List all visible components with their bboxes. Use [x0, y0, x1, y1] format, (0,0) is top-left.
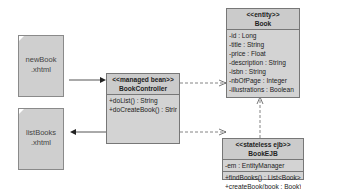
page-extension: .xhtml [19, 64, 63, 75]
class-header: <<managed bean>> BookController [107, 74, 179, 95]
attribute: -price : Float [229, 49, 297, 58]
class-stereotype: <<managed bean>> [107, 75, 179, 84]
class-stereotype: <<stateless ejb>> [223, 140, 303, 149]
class-stereotype: <<entity>> [227, 10, 299, 19]
class-book-entity[interactable]: <<entity>> Book -id : Long -title : Stri… [226, 8, 300, 98]
class-header: <<stateless ejb>> BookEJB [223, 139, 303, 160]
dependency-ejb-to-book [257, 97, 263, 138]
attribute: -em : EntityManager [225, 161, 301, 170]
class-book-controller[interactable]: <<managed bean>> BookController +doList(… [106, 73, 180, 144]
folded-corner-icon [19, 109, 24, 114]
operations-section: +doList() : String +doCreateBook() : Str… [107, 95, 179, 115]
class-name: BookController [107, 84, 179, 93]
operation: +doCreateBook() : String [109, 105, 177, 114]
page-extension: .xhtml [19, 137, 63, 148]
attribute: -isbn : String [229, 67, 297, 76]
attribute: -illustrations : Boolean [229, 85, 297, 94]
page-listbooks-xhtml[interactable]: listBooks .xhtml [18, 108, 64, 170]
class-name: Book [227, 19, 299, 28]
attribute: -id : Long [229, 31, 297, 40]
operation: +createBook(book : Book) : Book [225, 182, 301, 189]
class-header: <<entity>> Book [227, 9, 299, 30]
operation: +findBooks() : List<Book> [225, 173, 301, 182]
arrow-controller-to-listbooks [70, 129, 106, 135]
dependency-controller-to-book [180, 80, 226, 86]
arrow-newbook-to-controller [69, 77, 106, 83]
folded-corner-icon [19, 36, 24, 41]
attributes-section: -id : Long -title : String -price : Floa… [227, 30, 299, 95]
page-newbook-xhtml[interactable]: newBook .xhtml [18, 35, 64, 97]
dependency-controller-to-ejb [180, 129, 226, 135]
attribute: -description : String [229, 58, 297, 67]
operation: +doList() : String [109, 96, 177, 105]
attribute: -nbOfPage : Integer [229, 76, 297, 85]
attributes-section: -em : EntityManager [223, 160, 303, 172]
operations-section: +findBooks() : List<Book> +createBook(bo… [223, 172, 303, 189]
attribute: -title : String [229, 40, 297, 49]
class-book-ejb[interactable]: <<stateless ejb>> BookEJB -em : EntityMa… [222, 138, 304, 180]
class-name: BookEJB [223, 149, 303, 158]
